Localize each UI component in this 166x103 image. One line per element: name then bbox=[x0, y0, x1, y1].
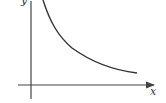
x-axis-label: x bbox=[150, 85, 157, 98]
y-axis-label: y bbox=[20, 0, 28, 7]
decreasing-curve bbox=[43, 0, 137, 73]
graph: x y bbox=[0, 0, 166, 103]
